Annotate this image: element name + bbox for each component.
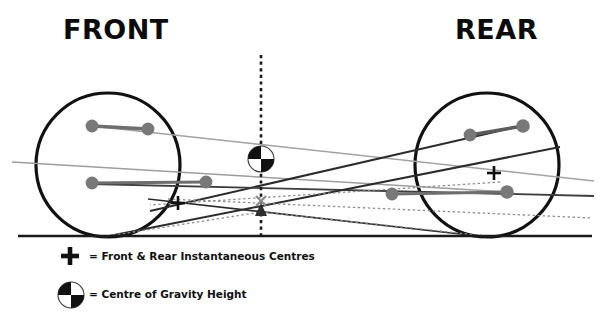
front-upper-inner-pivot-dot [86,120,99,133]
roll-centre-arrow-icon [255,196,267,216]
rear-instantaneous-centre-icon [487,166,501,180]
front-heading: FRONT [63,14,169,45]
legend-cg-icon [58,282,84,308]
rear-lower-outer-pivot-dot [500,185,514,199]
rear-heading: REAR [455,14,538,45]
suspension-geometry-diagram: FRONT REAR = Front & Rear Instantaneous … [0,0,609,314]
legend-plus-icon [61,247,79,265]
front-upper-projection-line [92,126,594,181]
front-upper-outer-pivot-dot [142,123,155,136]
rear-lower-arm-line [392,192,507,194]
rear-upper-outer-pivot-dot [516,119,530,133]
front-lower-inner-pivot-dot [86,177,99,190]
front-lower-outer-pivot-dot [200,176,213,189]
rear-upper-arm-line [470,126,523,135]
rear-upper-inner-pivot-dot [464,129,477,142]
rear-lower-inner-pivot-dot [386,188,399,201]
diagram-canvas [0,0,609,314]
legend-label-instantaneous-centres: = Front & Rear Instantaneous Centres [89,250,315,262]
front-lower-arm-line [92,182,206,183]
rear-wheel-circle [415,93,559,237]
centre-of-gravity-icon [248,146,274,172]
front-upper-arm-line [92,126,148,129]
legend-label-centre-of-gravity: = Centre of Gravity Height [89,288,247,300]
